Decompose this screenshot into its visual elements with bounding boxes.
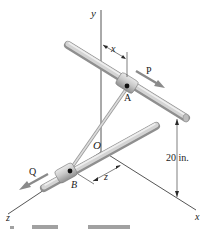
pin-a-icon <box>125 84 130 89</box>
force-q-label: Q <box>29 166 37 177</box>
x-axis-label: x <box>194 211 200 222</box>
z-dimension-label: z <box>103 171 108 182</box>
x-dimension-label: x <box>110 43 116 54</box>
z-axis-label: z <box>5 212 10 223</box>
force-p-label: P <box>146 65 152 76</box>
height-dimension-label: 20 in. <box>166 152 189 163</box>
collar-a-label: A <box>124 92 132 103</box>
diagram-canvas: y x z O A B P Q x z 20 in. <box>0 0 208 229</box>
pin-b-icon <box>68 169 73 174</box>
collar-b-label: B <box>71 179 77 190</box>
y-axis-label: y <box>90 7 96 19</box>
truncated-caption <box>10 225 130 229</box>
origin-label: O <box>93 139 101 151</box>
